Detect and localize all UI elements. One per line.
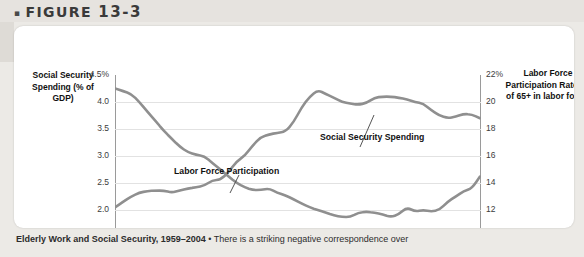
series-lines: [115, 75, 481, 228]
series-label-labor-force: Labor Force Participation: [174, 166, 279, 176]
y-tick-right: 12: [486, 204, 516, 214]
y-tick-right: 18: [486, 123, 516, 133]
figure-title: ▪FIGURE 13-3: [14, 3, 142, 21]
social-security-leader-line: [360, 115, 374, 147]
figure-card: Social Security Spending (% of GDP) Labo…: [14, 26, 574, 228]
social-security-spending-line: [115, 91, 480, 207]
y-tick-left: 4.0: [79, 96, 109, 106]
y-tick-right: 16: [486, 150, 516, 160]
y-tick-right: 22%: [486, 69, 516, 79]
y-tick-right: 20: [486, 96, 516, 106]
y-tick-left: 2.0: [79, 204, 109, 214]
page-edge-shade: [0, 22, 14, 62]
labor-force-participation-line: [115, 89, 480, 218]
series-label-social-security: Social Security Spending: [320, 132, 424, 142]
figure-bullet-icon: ▪: [14, 8, 22, 18]
y-tick-right: 14: [486, 177, 516, 187]
plot-area: [115, 75, 481, 228]
y-tick-left: 3.5: [79, 123, 109, 133]
caption-separator: •: [206, 234, 214, 244]
y-tick-left: 2.5: [79, 177, 109, 187]
figure-label: FIGURE: [26, 4, 92, 20]
caption-text: There is a striking negative corresponde…: [214, 234, 409, 244]
figure-caption: Elderly Work and Social Security, 1959–2…: [16, 233, 572, 245]
y-tick-left: 3.0: [79, 150, 109, 160]
caption-title: Elderly Work and Social Security, 1959–2…: [16, 234, 206, 244]
figure-number: 13-3: [98, 3, 142, 21]
y-tick-left: 4.5%: [79, 69, 109, 79]
